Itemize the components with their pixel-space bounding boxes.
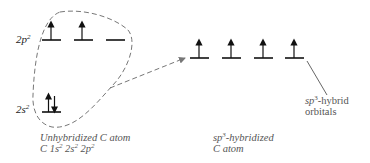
config-part: C 1s (40, 143, 59, 154)
caption-hybridized-line1: sp3-hybridized (213, 132, 274, 143)
annotation-line1: sp3-hybrid (305, 95, 349, 106)
config-sup: 2 (91, 142, 95, 150)
annotation-sp3-orbitals: sp3-hybrid orbitals (305, 95, 349, 117)
label-2p-sup: 2 (27, 33, 31, 41)
orbital-sp3-3 (254, 42, 273, 58)
annotation-rest: -hybrid (318, 95, 349, 106)
label-2p-base: 2p (16, 33, 27, 45)
caption-hybridized: sp3-hybridized C atom (213, 132, 274, 154)
orbital-sp3-2 (222, 42, 241, 58)
orbital-2p-1 (42, 24, 61, 40)
config-part: 2p (78, 143, 91, 154)
annotation-sp: sp (305, 95, 314, 106)
orbital-sp3-4 (285, 42, 304, 58)
label-2s-base: 2s (16, 103, 26, 115)
config-part: 2s (62, 143, 74, 154)
caption-hybridized-line2: C atom (213, 143, 274, 154)
hybridization-arrow (110, 58, 185, 88)
orbital-sp3-1 (190, 42, 209, 58)
orbital-2s (42, 96, 61, 112)
caption-sp: sp (213, 132, 222, 143)
label-2s-sup: 2 (26, 103, 30, 111)
label-2s: 2s2 (16, 103, 29, 115)
orbital-2p-2 (74, 24, 93, 40)
caption-rest: -hybridized (226, 132, 274, 143)
caption-unhybridized: Unhybridized C atom C 1s2 2s2 2p2 (40, 132, 130, 154)
label-2p: 2p2 (16, 33, 31, 45)
caption-unhybridized-config: C 1s2 2s2 2p2 (40, 143, 130, 154)
caption-unhybridized-line1: Unhybridized C atom (40, 132, 130, 143)
annotation-pointer (307, 61, 327, 95)
annotation-line2: orbitals (305, 106, 349, 117)
